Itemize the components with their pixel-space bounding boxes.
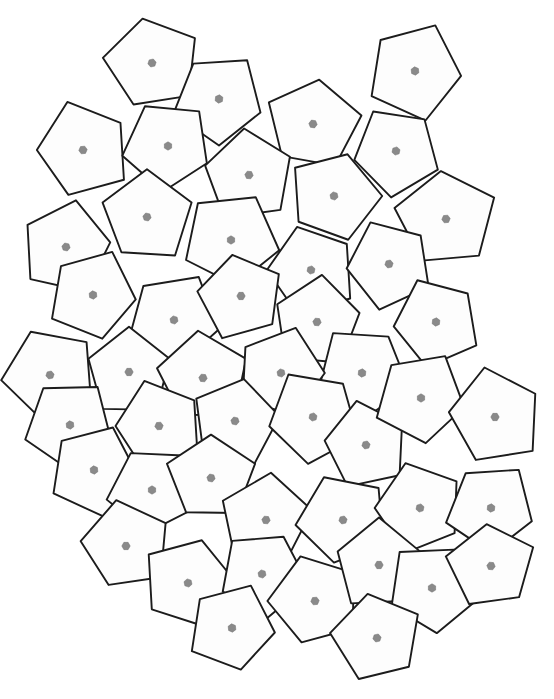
pentagon-outline [449, 368, 535, 460]
pentagon-tile [361, 17, 469, 125]
rosette-hub [227, 236, 234, 244]
rosette-hub [164, 142, 171, 150]
pentagon-tile [30, 97, 136, 203]
rosette-hub [375, 561, 383, 568]
rosette-hub [125, 368, 133, 375]
rosette-hub [491, 413, 499, 420]
tiles-layer [0, 10, 548, 688]
tiling-figure [0, 0, 554, 699]
rosette-hub [417, 394, 424, 402]
pentagon-tile [442, 364, 548, 470]
rosette-hub [237, 292, 245, 299]
rosette-hub [122, 542, 130, 549]
rosette-hub [428, 584, 435, 592]
tiling-canvas [0, 0, 554, 699]
rosette-hub [148, 486, 155, 494]
